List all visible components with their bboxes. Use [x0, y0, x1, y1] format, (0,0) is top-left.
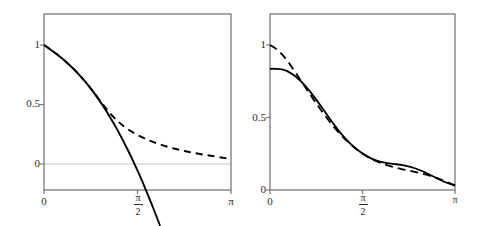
x-tick-label-left-0: 0	[36, 195, 52, 207]
fraction-bar-right	[359, 204, 368, 205]
denominator-two-right: 2	[355, 206, 371, 217]
x-tick-label-right-pi: π	[447, 194, 463, 205]
pi-symbol-left: π	[130, 193, 146, 203]
plot-left-graphic	[0, 0, 240, 226]
y-tick-label-left-0_5: 0.5	[10, 97, 40, 109]
plot-panel-right: 1 0.5 0 0 π 2 π	[240, 0, 480, 226]
denominator-two-left: 2	[130, 206, 146, 217]
x-tick-label-left-pi: π	[223, 195, 239, 207]
figure-canvas: 1 0.5 0 0 π 2 π 1 0.5 0 0 π 2	[0, 0, 480, 226]
curve-group-right	[270, 45, 455, 186]
axis-ticks-left	[40, 45, 231, 194]
x-tick-label-right-pi-over-2: π 2	[355, 193, 371, 217]
pi-symbol-right: π	[355, 193, 371, 203]
curve-dashed-left	[44, 45, 231, 159]
x-tick-label-right-0: 0	[262, 195, 278, 207]
curve-dashed-right	[270, 45, 455, 185]
plot-panel-left: 1 0.5 0 0 π 2 π	[0, 0, 240, 226]
y-tick-label-left-1: 1	[22, 38, 40, 50]
x-tick-label-left-pi-over-2: π 2	[130, 193, 146, 217]
y-tick-label-right-0: 0	[248, 183, 266, 195]
fraction-bar-left	[134, 204, 143, 205]
curve-solid-right	[270, 69, 455, 186]
axis-ticks-right	[266, 45, 455, 194]
y-tick-label-right-0_5: 0.5	[236, 111, 266, 123]
y-tick-label-left-0: 0	[22, 157, 40, 169]
plot-left-svg-wrapper	[0, 0, 240, 226]
plot-frame-right	[270, 14, 455, 190]
y-tick-label-right-1: 1	[248, 38, 266, 50]
